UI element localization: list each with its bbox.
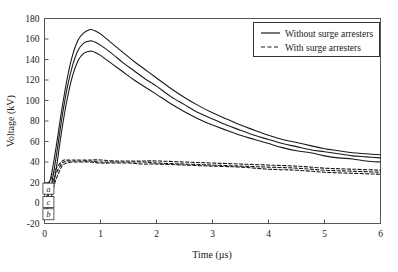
legend-label-with-arresters: With surge arresters bbox=[285, 43, 361, 53]
curve-tag-label: b bbox=[46, 210, 50, 219]
legend-label-without-arresters: Without surge arresters bbox=[285, 29, 373, 39]
x-tick-label: 0 bbox=[42, 229, 47, 239]
y-tick-label: 40 bbox=[30, 157, 40, 167]
x-axis-title: Time (µs) bbox=[192, 249, 232, 261]
x-tick-label: 2 bbox=[154, 229, 159, 239]
y-tick-label: 60 bbox=[30, 137, 40, 147]
y-tick-label: 140 bbox=[25, 55, 40, 65]
voltage-time-plot: -20020406080100120140160180 0123456 acb … bbox=[0, 0, 398, 272]
x-tick-label: 5 bbox=[322, 229, 327, 239]
y-tick-label: 120 bbox=[25, 75, 40, 85]
curve-tag-label: c bbox=[47, 198, 51, 207]
curve-tag-label: a bbox=[46, 185, 50, 194]
x-tick-label: 6 bbox=[378, 229, 383, 239]
y-axis-title: Voltage (kV) bbox=[5, 95, 17, 147]
legend: Without surge arresters With surge arres… bbox=[254, 23, 380, 57]
y-tick-label: 160 bbox=[25, 34, 40, 44]
x-tick-label: 3 bbox=[210, 229, 215, 239]
chart-figure: -20020406080100120140160180 0123456 acb … bbox=[0, 0, 398, 272]
x-tick-label: 1 bbox=[98, 229, 103, 239]
y-tick-label: 20 bbox=[30, 178, 40, 188]
y-tick-label: 80 bbox=[30, 116, 40, 126]
y-tick-label: 0 bbox=[35, 198, 40, 208]
x-tick-label: 4 bbox=[266, 229, 271, 239]
y-tick-label: 100 bbox=[25, 96, 40, 106]
curve-tag-group: acb bbox=[43, 183, 54, 220]
y-tick-label: -20 bbox=[27, 219, 40, 229]
y-tick-label: 180 bbox=[25, 14, 40, 24]
